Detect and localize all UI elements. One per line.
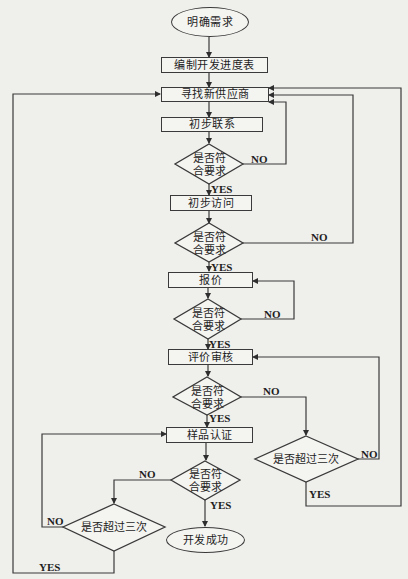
decision-line1: 是否符 (191, 385, 224, 398)
edge-label-no: NO (361, 449, 378, 460)
end-label: 开发成功 (183, 535, 229, 546)
edge-label-yes: YES (309, 489, 330, 500)
decision-exceeds-text: 是否超过三次 (81, 521, 147, 534)
decision-exceeds-right-label: 是否超过三次 (266, 452, 346, 466)
process-initial-contact: 初步联系 (161, 117, 263, 132)
process-find-supplier: 寻找新供应商 (161, 87, 269, 102)
process-schedule: 编制开发进度表 (161, 57, 268, 73)
edge-label-no: NO (311, 232, 328, 243)
decision-line2: 合要求 (193, 244, 226, 257)
edge-label-no: NO (263, 386, 280, 397)
decision-line1: 是否符 (192, 307, 225, 320)
edge-label-no: NO (139, 469, 156, 480)
process-quote: 报价 (168, 272, 253, 288)
decision-line1: 是否符 (193, 152, 226, 165)
decision-exceeds-text: 是否超过三次 (273, 453, 339, 466)
process-initial-contact-label: 初步联系 (189, 119, 235, 130)
process-evaluation-label: 评价审核 (188, 352, 234, 363)
decision-line2: 合要求 (192, 320, 225, 333)
decision-exceeds-left-label: 是否超过三次 (74, 520, 154, 534)
decision-5-label: 是否符 合要求 (175, 467, 235, 494)
decision-line2: 合要求 (191, 398, 224, 411)
edge-label-yes: YES (210, 500, 231, 511)
process-quote-label: 报价 (199, 275, 222, 286)
process-initial-visit-label: 初步访问 (188, 198, 234, 209)
edge-label-yes: YES (209, 413, 230, 424)
process-schedule-label: 编制开发进度表 (174, 60, 255, 71)
decision-line1: 是否符 (193, 231, 226, 244)
start-node: 明确需求 (171, 7, 249, 37)
edge-label-no: NO (47, 516, 64, 527)
decision-line1: 是否符 (189, 468, 222, 481)
edge-label-yes: YES (209, 339, 230, 350)
decision-2-label: 是否符 合要求 (179, 230, 239, 257)
decision-line2: 合要求 (189, 481, 222, 494)
edge-label-yes: YES (39, 562, 60, 573)
decision-3-label: 是否符 合要求 (178, 306, 238, 333)
end-node: 开发成功 (166, 527, 245, 553)
edge-label-no: NO (251, 154, 268, 165)
process-sample-cert: 样品认证 (166, 427, 253, 443)
process-sample-cert-label: 样品认证 (187, 430, 233, 441)
decision-line2: 合要求 (193, 165, 226, 178)
process-find-supplier-label: 寻找新供应商 (181, 89, 250, 100)
decision-4-label: 是否符 合要求 (177, 384, 237, 411)
decision-1-label: 是否符 合要求 (179, 151, 239, 178)
process-evaluation: 评价审核 (168, 349, 253, 365)
edge-label-yes: YES (211, 184, 232, 195)
start-label: 明确需求 (187, 17, 233, 28)
edge-label-yes: YES (211, 262, 232, 273)
process-initial-visit: 初步访问 (170, 195, 252, 211)
edge-label-no: NO (264, 309, 281, 320)
flowchart-canvas: 明确需求 开发成功 编制开发进度表 寻找新供应商 初步联系 初步访问 报价 评价… (0, 0, 408, 579)
